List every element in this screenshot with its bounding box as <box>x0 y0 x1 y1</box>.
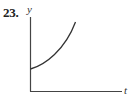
plot-area <box>0 0 136 109</box>
curve <box>31 22 76 69</box>
